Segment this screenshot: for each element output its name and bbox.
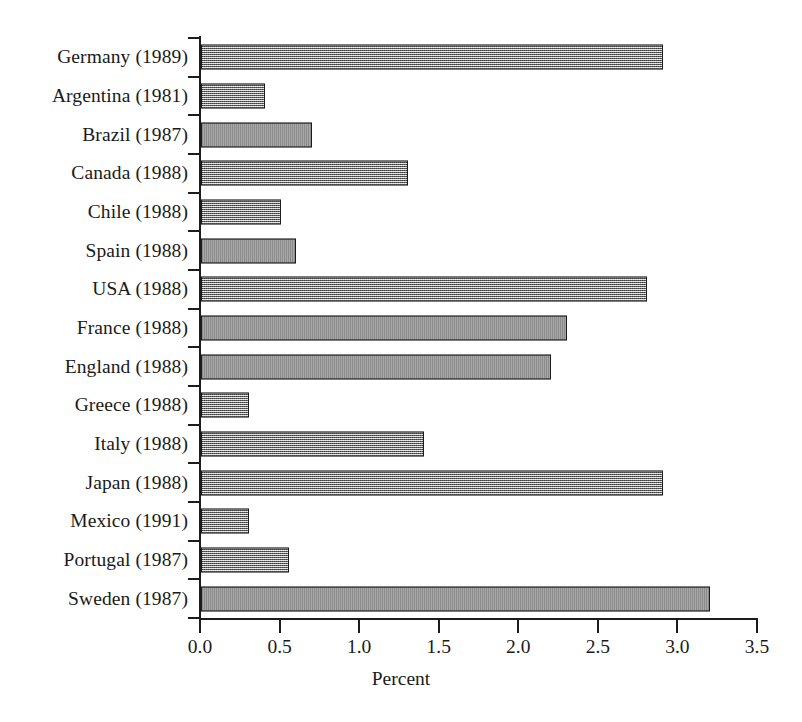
- value-tick: [438, 620, 440, 633]
- bar-row: Portugal (1987): [0, 541, 802, 580]
- category-axis-line: [199, 36, 201, 620]
- category-label: England (1988): [65, 356, 188, 378]
- category-label: Brazil (1987): [82, 124, 188, 146]
- bar: [201, 83, 265, 108]
- bar-row: Japan (1988): [0, 463, 802, 502]
- bar-row: Sweden (1987): [0, 579, 802, 618]
- category-tick: [188, 308, 200, 310]
- value-tick: [358, 620, 360, 633]
- category-label: Japan (1988): [86, 472, 188, 494]
- value-tick-label: 1.0: [347, 636, 371, 658]
- value-tick-label: 2.5: [586, 636, 610, 658]
- category-label: Italy (1988): [94, 433, 188, 455]
- bar: [201, 315, 567, 340]
- category-label: Chile (1988): [88, 201, 188, 223]
- bar: [201, 431, 424, 456]
- category-label: Mexico (1991): [70, 510, 188, 532]
- category-tick: [188, 114, 200, 116]
- bar: [201, 161, 408, 186]
- bar: [201, 470, 663, 495]
- category-tick: [188, 540, 200, 542]
- value-axis-ticks: 0.00.51.01.52.02.53.03.5: [0, 620, 802, 660]
- bar-row: Italy (1988): [0, 425, 802, 464]
- category-label: France (1988): [77, 317, 188, 339]
- bar-row: England (1988): [0, 347, 802, 386]
- bar-row: Germany (1989): [0, 38, 802, 77]
- value-tick-label: 0.5: [267, 636, 291, 658]
- category-tick: [188, 424, 200, 426]
- category-tick: [188, 385, 200, 387]
- category-tick: [188, 76, 200, 78]
- category-label: Canada (1988): [71, 162, 188, 184]
- bar: [201, 509, 249, 534]
- bar-row: Greece (1988): [0, 386, 802, 425]
- bar-row: Chile (1988): [0, 193, 802, 232]
- bar-row: Mexico (1991): [0, 502, 802, 541]
- category-tick: [188, 153, 200, 155]
- bar: [201, 354, 551, 379]
- x-axis-title: Percent: [0, 668, 802, 690]
- bar: [201, 45, 663, 70]
- category-tick: [188, 269, 200, 271]
- category-tick: [188, 230, 200, 232]
- category-label: Greece (1988): [75, 394, 188, 416]
- category-label: Spain (1988): [86, 240, 188, 262]
- bar: [201, 199, 281, 224]
- category-tick: [188, 501, 200, 503]
- category-tick: [188, 346, 200, 348]
- category-label: Sweden (1987): [68, 588, 188, 610]
- category-tick: [188, 617, 200, 619]
- category-tick: [188, 192, 200, 194]
- bar: [201, 122, 312, 147]
- bar: [201, 586, 710, 611]
- value-tick-label: 3.0: [665, 636, 689, 658]
- bar-row: USA (1988): [0, 270, 802, 309]
- value-tick: [517, 620, 519, 633]
- bar: [201, 547, 289, 572]
- value-axis-line: [199, 618, 758, 620]
- bar-chart-figure: Germany (1989)Argentina (1981)Brazil (19…: [0, 0, 802, 722]
- value-tick-label: 2.0: [506, 636, 530, 658]
- value-tick-label: 0.0: [188, 636, 212, 658]
- bar-row: Canada (1988): [0, 154, 802, 193]
- bar-row: Brazil (1987): [0, 115, 802, 154]
- value-tick: [756, 620, 758, 633]
- bar: [201, 277, 647, 302]
- bar-rows: Germany (1989)Argentina (1981)Brazil (19…: [0, 38, 802, 618]
- value-tick: [199, 620, 201, 633]
- value-tick: [676, 620, 678, 633]
- bar-row: Spain (1988): [0, 231, 802, 270]
- category-label: Argentina (1981): [52, 85, 188, 107]
- value-tick: [597, 620, 599, 633]
- category-label: Germany (1989): [57, 46, 188, 68]
- category-tick: [188, 462, 200, 464]
- category-tick: [188, 578, 200, 580]
- bar: [201, 238, 296, 263]
- category-label: USA (1988): [92, 278, 188, 300]
- bar-row: Argentina (1981): [0, 77, 802, 116]
- category-tick: [188, 37, 200, 39]
- value-tick-label: 1.5: [427, 636, 451, 658]
- value-tick: [279, 620, 281, 633]
- category-label: Portugal (1987): [64, 549, 188, 571]
- value-tick-label: 3.5: [745, 636, 769, 658]
- bar-row: France (1988): [0, 309, 802, 348]
- bar: [201, 393, 249, 418]
